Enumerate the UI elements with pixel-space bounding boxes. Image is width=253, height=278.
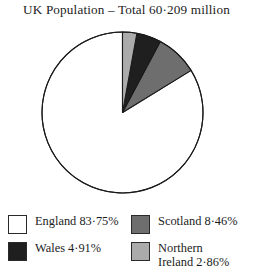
pie-svg: [41, 31, 204, 194]
legend-column-left: England 83·75% Wales 4·91%: [8, 214, 128, 268]
legend-label-wales: Wales 4·91%: [35, 241, 101, 256]
legend-item-northern-ireland[interactable]: Northern Ireland 2·86%: [131, 241, 251, 270]
legend-label-scotland: Scotland 8·46%: [158, 214, 238, 229]
legend-swatch-northern-ireland: [131, 242, 150, 261]
legend-swatch-wales: [8, 242, 27, 261]
legend-column-right: Scotland 8·46% Northern Ireland 2·86%: [131, 214, 251, 277]
pie-chart-graphic: [41, 31, 204, 194]
pie-chart-figure: UK Population – Total 60·209 million Eng…: [0, 0, 253, 278]
legend-item-wales[interactable]: Wales 4·91%: [8, 241, 128, 261]
legend-item-england[interactable]: England 83·75%: [8, 214, 128, 234]
legend-label-england: England 83·75%: [35, 214, 119, 229]
legend-label-northern-ireland: Northern Ireland 2·86%: [158, 241, 229, 270]
legend-item-scotland[interactable]: Scotland 8·46%: [131, 214, 251, 234]
chart-legend: England 83·75% Wales 4·91% Scotland 8·46…: [0, 214, 253, 278]
chart-title: UK Population – Total 60·209 million: [0, 2, 253, 18]
legend-swatch-scotland: [131, 215, 150, 234]
legend-swatch-england: [8, 215, 27, 234]
